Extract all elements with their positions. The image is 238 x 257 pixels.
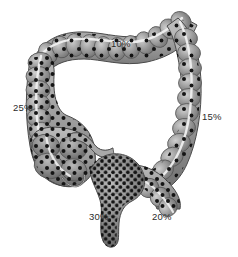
percent-label-descending-colon: 15%	[202, 111, 222, 122]
percent-label-ascending-colon: 25%	[13, 102, 33, 113]
percent-label-sigmoid-colon: 20%	[152, 211, 172, 222]
rectum-segment	[84, 146, 154, 254]
percent-label-rectum: 30%	[89, 211, 109, 222]
percent-label-transverse-colon: 10%	[111, 38, 131, 49]
colon-cancer-distribution-figure: 10% 25% 15% 30% 20%	[0, 0, 238, 257]
